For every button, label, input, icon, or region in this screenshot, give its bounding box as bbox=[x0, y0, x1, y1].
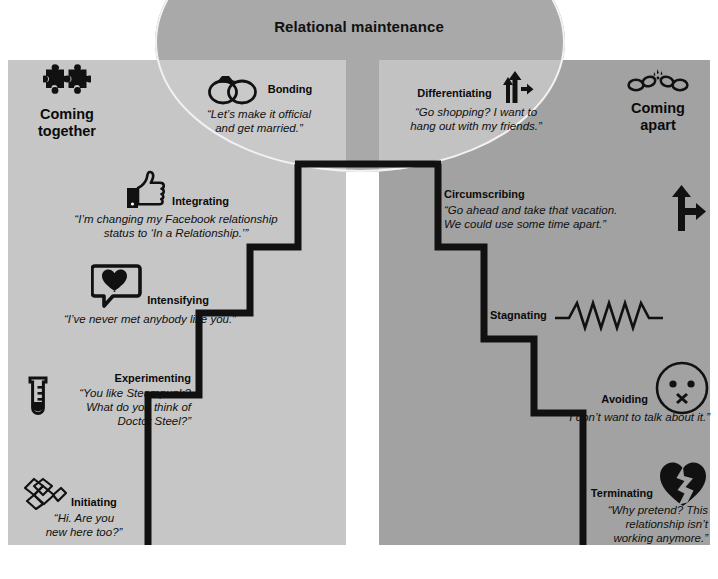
stage-differentiating-quote-line1: “Go shopping? I want to bbox=[390, 105, 562, 119]
broken-heart-icon bbox=[658, 460, 708, 508]
stage-circumscribing-quote-line2: We could use some time apart.” bbox=[444, 217, 660, 231]
stage-stagnating-label: Stagnating bbox=[490, 309, 547, 322]
stage-terminating: Terminating “Why pretend? This relations… bbox=[520, 460, 708, 545]
stage-avoiding: Avoiding “I don’t want to talk about it.… bbox=[490, 360, 710, 424]
stage-integrating-label: Integrating bbox=[172, 195, 229, 210]
stage-terminating-label: Terminating bbox=[591, 487, 653, 502]
stage-terminating-quote-line2: relationship isn’t bbox=[520, 517, 708, 531]
broken-chain-icon bbox=[627, 68, 689, 98]
stage-initiating-label: Initiating bbox=[71, 496, 117, 510]
stage-bonding-quote-line2: and get married.” bbox=[178, 121, 340, 135]
stage-terminating-quote-line1: “Why pretend? This bbox=[520, 503, 708, 517]
flatline-zigzag-icon bbox=[555, 298, 665, 332]
stage-differentiating: Differentiating “Go shopping? I want to … bbox=[390, 70, 562, 133]
coming-apart-line1: Coming bbox=[606, 100, 710, 117]
thumbs-up-icon bbox=[123, 170, 167, 210]
stage-intensifying-quote-line1: “I’ve never met anybody like you.” bbox=[50, 312, 250, 326]
face-x-mouth-icon bbox=[654, 360, 710, 416]
stage-avoiding-quote-line1: “I don’t want to talk about it.” bbox=[490, 410, 710, 424]
coming-together-line2: together bbox=[14, 123, 120, 140]
stage-integrating: Integrating “I’m changing my Facebook re… bbox=[56, 170, 296, 240]
stage-differentiating-label: Differentiating bbox=[417, 87, 492, 104]
stage-bonding-label: Bonding bbox=[268, 83, 313, 96]
diverging-arrows-icon bbox=[497, 70, 535, 104]
handshake-icon bbox=[22, 476, 68, 510]
relational-maintenance-title: Relational maintenance bbox=[0, 18, 718, 35]
stage-initiating: Initiating “Hi. Are you new here too?” bbox=[22, 476, 146, 539]
stage-experimenting-quote-line1: “You like Steampunk? bbox=[56, 386, 191, 400]
stage-integrating-quote-line2: status to ‘In a Relationship.’” bbox=[56, 226, 296, 240]
coming-together-line1: Coming bbox=[14, 106, 120, 123]
stage-experimenting: Experimenting “You like Steampunk? What … bbox=[26, 372, 191, 428]
stage-bonding-quote-line1: “Let’s make it official bbox=[178, 107, 340, 121]
forking-arrow-icon bbox=[668, 184, 708, 232]
coming-together-header: Coming together bbox=[14, 60, 120, 140]
stage-intensifying-label: Intensifying bbox=[147, 294, 209, 310]
relational-development-diagram: Relational maintenance bbox=[0, 0, 718, 579]
stage-intensifying: Intensifying “I’ve never met anybody lik… bbox=[50, 262, 250, 326]
wedding-rings-icon bbox=[206, 72, 262, 106]
test-tube-icon bbox=[26, 376, 50, 420]
stage-circumscribing-quote-line1: “Go ahead and take that vacation. bbox=[444, 203, 660, 217]
stage-experimenting-label: Experimenting bbox=[56, 372, 191, 385]
stage-circumscribing: Circumscribing “Go ahead and take that v… bbox=[444, 188, 708, 232]
stage-differentiating-quote-line2: hang out with my friends.” bbox=[390, 119, 562, 133]
heart-speech-bubble-icon bbox=[91, 262, 143, 310]
stage-circumscribing-label: Circumscribing bbox=[444, 188, 660, 201]
stage-avoiding-label: Avoiding bbox=[601, 393, 648, 408]
stage-initiating-quote-line1: “Hi. Are you bbox=[22, 511, 146, 525]
coming-apart-header: Coming apart bbox=[606, 60, 710, 134]
puzzle-pieces-icon bbox=[43, 64, 91, 104]
coming-apart-line2: apart bbox=[606, 117, 710, 134]
stage-experimenting-quote-line3: Doctor Steel?” bbox=[56, 414, 191, 428]
stage-stagnating: Stagnating bbox=[490, 298, 690, 332]
stage-experimenting-quote-line2: What do you think of bbox=[56, 400, 191, 414]
stage-terminating-quote-line3: working anymore.” bbox=[520, 531, 708, 545]
stage-integrating-quote-line1: “I’m changing my Facebook relationship bbox=[56, 212, 296, 226]
stage-initiating-quote-line2: new here too?” bbox=[22, 525, 146, 539]
stage-bonding: Bonding “Let’s make it official and get … bbox=[178, 72, 340, 135]
